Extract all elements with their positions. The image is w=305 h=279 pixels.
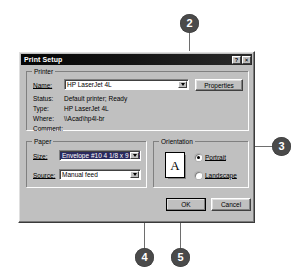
orientation-landscape-radio[interactable]: Landscape <box>195 172 237 179</box>
radio-unselected-icon <box>195 172 202 179</box>
orientation-portrait-radio[interactable]: Portrait <box>195 154 226 161</box>
close-icon[interactable]: ✕ <box>242 56 251 64</box>
cancel-button-label: Cancel <box>221 201 241 208</box>
paper-source-value: Manual feed <box>60 171 98 178</box>
paper-source-dropdown-arrow[interactable] <box>130 171 139 178</box>
printer-type-label: Type: <box>33 105 49 112</box>
printer-name-dropdown-arrow[interactable] <box>178 81 187 88</box>
printer-status-label: Status: <box>33 95 53 102</box>
ok-button[interactable]: OK <box>166 198 206 211</box>
printer-status-value: Default printer; Ready <box>64 95 127 102</box>
printer-name-value: HP LaserJet 4L <box>65 81 112 88</box>
orientation-preview-icon: A <box>165 152 185 178</box>
callout-3: 3 <box>272 137 291 156</box>
dialog-title-bar[interactable]: Print Setup ? ✕ <box>21 54 252 65</box>
printer-where-label: Where: <box>33 115 54 122</box>
callout-5: 5 <box>171 248 190 267</box>
paper-source-dropdown[interactable]: Manual feed <box>59 169 141 180</box>
printer-group-legend: Printer <box>32 68 55 75</box>
radio-selected-icon <box>195 154 202 161</box>
print-setup-dialog: Print Setup ? ✕ Printer Name: HP LaserJe… <box>18 51 255 223</box>
page-icon-glyph: A <box>170 159 179 172</box>
callout-3-number: 3 <box>278 141 284 152</box>
callout-5-number: 5 <box>177 252 183 263</box>
callout-4: 4 <box>135 248 154 267</box>
paper-size-dropdown-arrow[interactable] <box>130 152 139 159</box>
ok-button-label: OK <box>181 201 190 208</box>
dialog-title: Print Setup <box>24 56 62 63</box>
printer-name-label: Name: <box>33 82 52 89</box>
paper-group: Paper <box>26 141 147 188</box>
paper-group-legend: Paper <box>32 138 53 145</box>
title-bar-buttons: ? ✕ <box>232 56 251 64</box>
callout-2: 2 <box>180 14 199 33</box>
orientation-landscape-label: Landscape <box>205 172 237 179</box>
printer-comment-label: Comment: <box>33 125 63 132</box>
printer-where-value: \\Acad\hp4l-br <box>64 115 104 122</box>
paper-size-value: Envelope #10 4 1/8 x 9 1/2 in <box>60 152 140 159</box>
printer-type-value: HP LaserJet 4L <box>64 105 109 112</box>
properties-button-label: Properties <box>204 82 234 89</box>
orientation-group-legend: Orientation <box>159 138 195 145</box>
callout-2-number: 2 <box>186 18 192 29</box>
callout-4-number: 4 <box>141 252 147 263</box>
screenshot-canvas: 2 3 4 5 Print Setup ? ✕ Printer Name: HP… <box>0 0 305 279</box>
orientation-portrait-label: Portrait <box>205 154 226 161</box>
printer-name-dropdown[interactable]: HP LaserJet 4L <box>64 79 189 90</box>
paper-source-label: Source: <box>33 172 55 179</box>
cancel-button[interactable]: Cancel <box>211 198 251 211</box>
paper-size-dropdown[interactable]: Envelope #10 4 1/8 x 9 1/2 in <box>59 150 141 161</box>
help-button[interactable]: ? <box>232 56 241 64</box>
paper-size-label: Size: <box>33 153 47 160</box>
properties-button[interactable]: Properties <box>195 79 243 91</box>
